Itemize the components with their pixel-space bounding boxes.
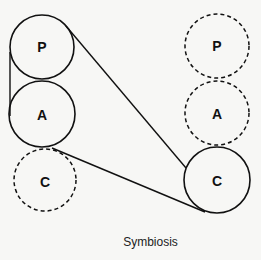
right-circle-p-label: P — [212, 38, 221, 54]
right-circle-a-label: A — [212, 106, 222, 122]
left-circle-a-label: A — [37, 107, 47, 123]
left-circle-a: A — [9, 81, 75, 147]
left-circle-c: C — [14, 149, 76, 211]
right-circle-p: P — [185, 14, 249, 78]
symbiosis-diagram: P A C P A C — [0, 0, 261, 260]
diagram-caption: Symbiosis — [0, 235, 261, 249]
left-circle-c-label: C — [40, 174, 50, 190]
left-circle-p: P — [10, 15, 74, 79]
left-circle-p-label: P — [37, 39, 46, 55]
right-circle-c: C — [184, 147, 250, 213]
connector-line-bottom — [52, 148, 205, 212]
connector-line-top — [66, 26, 186, 168]
right-circle-c-label: C — [212, 173, 222, 189]
right-circle-a: A — [185, 81, 249, 145]
